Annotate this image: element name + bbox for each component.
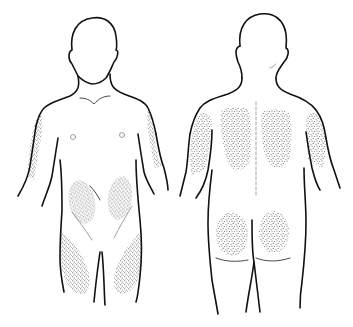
back-right-upper-back-site bbox=[261, 109, 291, 167]
back-right-buttock-site bbox=[259, 211, 289, 253]
back-body-outline bbox=[176, 0, 353, 327]
back-left-buttock-site bbox=[216, 212, 248, 256]
front-injection-sites bbox=[27, 110, 162, 294]
front-body-figure bbox=[0, 0, 176, 327]
back-right-arm-site bbox=[306, 112, 326, 168]
front-right-arm-site bbox=[147, 110, 162, 168]
front-left-abdomen-site bbox=[65, 178, 100, 226]
front-right-abdomen-site bbox=[105, 175, 135, 222]
front-right-thigh-site bbox=[114, 230, 142, 294]
back-body-figure bbox=[176, 0, 353, 327]
front-outline-strokes bbox=[18, 18, 168, 305]
front-body-outline bbox=[0, 0, 176, 327]
back-left-upper-back-site bbox=[221, 107, 252, 170]
front-left-thigh-site bbox=[60, 232, 90, 294]
